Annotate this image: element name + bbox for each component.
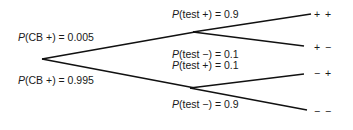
outcome-neg-pos: − +: [314, 67, 332, 79]
branch-pos-testneg: [193, 32, 304, 46]
label-lower-test-pos: P(test +) = 0.1: [172, 59, 239, 71]
label-upper-test-pos: P(test +) = 0.9: [172, 8, 239, 20]
label-p-cb-pos: P(CB +) = 0.005: [18, 31, 94, 43]
label-lower-test-neg: P(test −) = 0.9: [172, 98, 239, 110]
label-p-cb-neg: P(CB +) = 0.995: [18, 74, 94, 86]
outcome-pos-pos: + +: [314, 8, 332, 20]
outcome-pos-neg: + −: [314, 41, 332, 53]
branch-neg-testpos: [190, 74, 304, 88]
outcome-neg-neg: − −: [314, 105, 332, 117]
